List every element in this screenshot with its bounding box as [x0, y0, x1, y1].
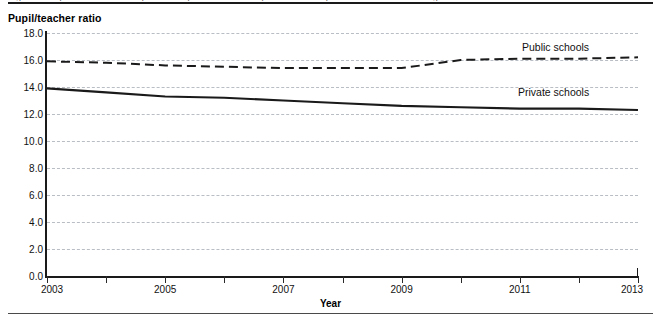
plot-area — [47, 33, 638, 276]
y-tick-label: 10.0 — [3, 136, 43, 147]
x-tick — [402, 276, 403, 283]
x-tick — [47, 276, 48, 283]
x-tick-label: 2007 — [272, 284, 294, 295]
clipped-figure-header: Figure 4. Pupil/teacher ratios in public… — [8, 0, 648, 1]
y-tick-label: 0.0 — [3, 271, 43, 282]
series-label-public-schools: Public schools — [522, 41, 589, 53]
figure-root: Figure 4. Pupil/teacher ratios in public… — [0, 0, 661, 320]
x-tick — [638, 276, 639, 283]
x-tick — [283, 276, 284, 283]
y-tick-label: 6.0 — [3, 190, 43, 201]
x-tick-label: 2005 — [154, 284, 176, 295]
y-tick-label: 8.0 — [3, 163, 43, 174]
bottom-divider-rule — [8, 313, 653, 314]
series-lines — [47, 33, 638, 276]
y-tick-label: 14.0 — [3, 82, 43, 93]
x-tick — [106, 276, 107, 283]
x-tick — [579, 276, 580, 283]
y-tick-label: 2.0 — [3, 244, 43, 255]
x-tick — [520, 276, 521, 283]
series-line-public-schools — [47, 57, 638, 68]
y-axis-tick-labels: 0.02.04.06.08.010.012.014.016.018.0 — [0, 0, 43, 320]
y-axis-line — [45, 31, 47, 278]
x-axis-title: Year — [0, 298, 661, 309]
x-tick-label: 2003 — [41, 284, 63, 295]
y-tick-label: 4.0 — [3, 217, 43, 228]
top-divider-rule — [8, 2, 653, 4]
x-tick — [165, 276, 166, 283]
x-tick — [343, 276, 344, 283]
y-tick-label: 18.0 — [3, 28, 43, 39]
x-tick-label: 2013 — [621, 284, 643, 295]
series-label-private-schools: Private schools — [518, 86, 589, 98]
x-tick-label: 2009 — [390, 284, 412, 295]
x-tick — [224, 276, 225, 283]
x-tick-label: 2011 — [509, 284, 531, 295]
x-tick — [461, 276, 462, 283]
y-tick-label: 16.0 — [3, 55, 43, 66]
y-tick-label: 12.0 — [3, 109, 43, 120]
